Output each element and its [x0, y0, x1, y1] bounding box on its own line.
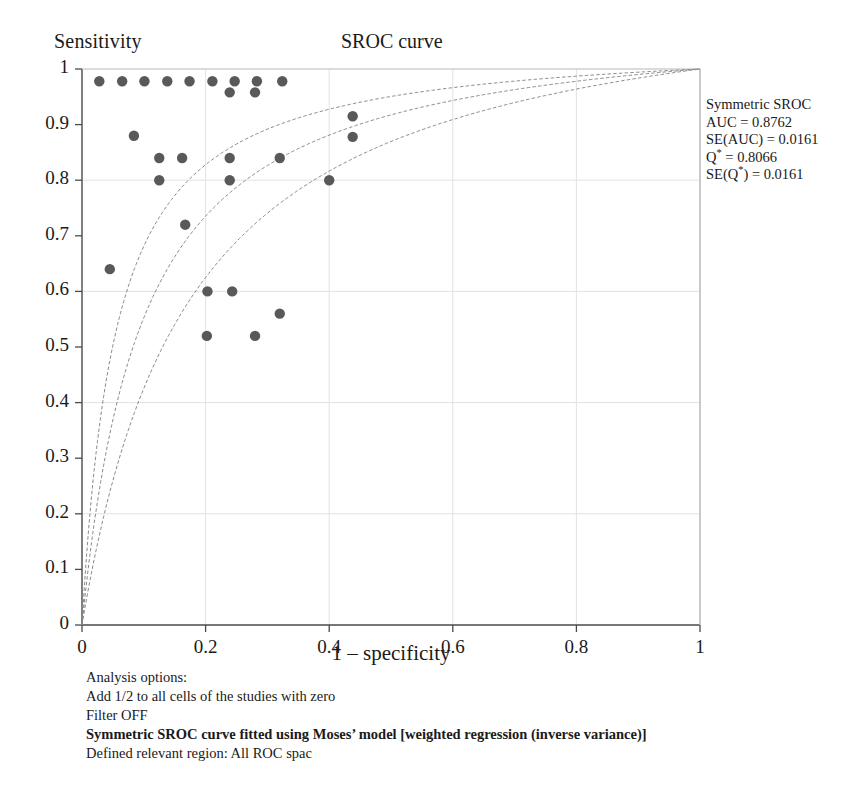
- plot-border: [82, 69, 700, 625]
- scatter-point: [250, 87, 260, 97]
- scatter-point: [177, 153, 187, 163]
- footer-line-filter: Filter OFF: [86, 706, 647, 725]
- scatter-point: [324, 175, 334, 185]
- y-tick-label: 0.7: [0, 223, 69, 245]
- scatter-point: [347, 132, 357, 142]
- scatter-point: [207, 76, 217, 86]
- scatter-point: [252, 76, 262, 86]
- scatter-point: [129, 131, 139, 141]
- scatter-point: [225, 175, 235, 185]
- y-tick-label: 0.9: [0, 112, 69, 134]
- legend-qstar: Q* = 0.8066: [706, 149, 861, 167]
- scatter-point: [347, 111, 357, 121]
- scatter-point: [162, 76, 172, 86]
- scatter-point: [180, 219, 190, 229]
- legend-panel: Symmetric SROC AUC = 0.8762 SE(AUC) = 0.…: [706, 96, 861, 184]
- y-tick-label: 0.5: [0, 334, 69, 356]
- scatter-point: [105, 264, 115, 274]
- scatter-point: [94, 76, 104, 86]
- scatter-point: [202, 286, 212, 296]
- y-tick-label: 0: [0, 612, 69, 634]
- scatter-point: [277, 76, 287, 86]
- scatter-points: [94, 76, 358, 341]
- legend-auc: AUC = 0.8762: [706, 114, 861, 132]
- scatter-point: [275, 308, 285, 318]
- scatter-point: [117, 76, 127, 86]
- scatter-point: [275, 153, 285, 163]
- scatter-point: [227, 286, 237, 296]
- footer-line-analysis-options: Analysis options:: [86, 668, 647, 687]
- y-tick-label: 0.4: [0, 390, 69, 412]
- legend-se-qstar: SE(Q*) = 0.0161: [706, 166, 861, 184]
- x-axis-label: 1 – specificity: [0, 641, 782, 666]
- y-tick-label: 0.6: [0, 278, 69, 300]
- footer-line-region: Defined relevant region: All ROC spac: [86, 744, 647, 763]
- scatter-point: [139, 76, 149, 86]
- legend-title: Symmetric SROC: [706, 96, 861, 114]
- legend-se-auc: SE(AUC) = 0.0161: [706, 131, 861, 149]
- y-tick-label: 1: [0, 56, 69, 78]
- footer-line-zero-cells: Add 1/2 to all cells of the studies with…: [86, 687, 647, 706]
- scatter-point: [225, 87, 235, 97]
- y-tick-label: 0.8: [0, 167, 69, 189]
- y-tick-label: 0.1: [0, 556, 69, 578]
- y-tick-label: 0.2: [0, 501, 69, 523]
- scatter-point: [250, 331, 260, 341]
- sroc-chart: Sensitivity SROC curve 00.10.20.30.40.50…: [0, 0, 867, 803]
- scatter-point: [229, 76, 239, 86]
- analysis-options-footer: Analysis options: Add 1/2 to all cells o…: [86, 668, 647, 763]
- scatter-point: [154, 153, 164, 163]
- footer-line-model: Symmetric SROC curve fitted using Moses’…: [86, 725, 647, 744]
- sroc-curves: [82, 69, 700, 625]
- scatter-point: [184, 76, 194, 86]
- scatter-point: [154, 175, 164, 185]
- scatter-point: [225, 153, 235, 163]
- scatter-point: [202, 331, 212, 341]
- gridlines: [82, 69, 700, 625]
- axis-ticks: [75, 69, 700, 632]
- y-tick-label: 0.3: [0, 445, 69, 467]
